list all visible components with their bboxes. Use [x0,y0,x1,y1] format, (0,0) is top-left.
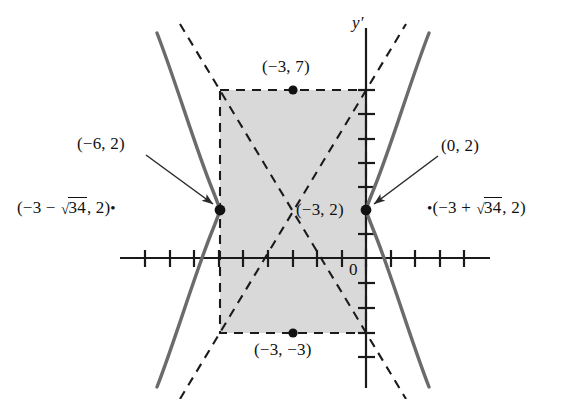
point-dot-bottom-vertex [288,328,297,337]
right-focus-radicand: 34 [484,197,502,217]
label-top-vertex: (−3, 7) [262,58,310,75]
label-right-vertex: (0, 2) [441,137,479,154]
label-right-focus: •(−3 + √34, 2) [427,199,526,216]
point-dot-right-vertex [361,205,372,216]
right-focus-radical: √34 [476,199,503,216]
point-dot-top-vertex [288,85,297,94]
label-right-focus-prefix: (−3 + [432,198,475,217]
hyperbola-figure: y′ 0 (−3, 7) (−3, −3) (−6, 2) (0, 2) (−3… [0,0,582,399]
hyperbola-left-branch [157,33,220,387]
label-left-vertex: (−6, 2) [77,135,125,152]
radical-sign: √ [61,201,69,217]
label-right-focus-suffix: , 2) [502,198,525,217]
origin-label: 0 [349,261,358,278]
radical-sign: √ [477,201,485,217]
label-left-focus: (−3 − √34, 2)• [17,199,116,216]
label-left-focus-prefix: (−3 − [17,198,60,217]
y-axis-label: y′ [352,14,364,31]
point-dot-left-focus: • [110,200,115,216]
point-dot-left-vertex [215,205,226,216]
hyperbola-right-branch [366,33,429,387]
left-focus-radical: √34 [60,199,87,216]
left-focus-radicand: 34 [68,197,86,217]
label-left-focus-suffix: , 2) [87,198,110,217]
label-center: (−3, 2) [296,201,344,218]
label-bottom-vertex: (−3, −3) [254,341,312,358]
